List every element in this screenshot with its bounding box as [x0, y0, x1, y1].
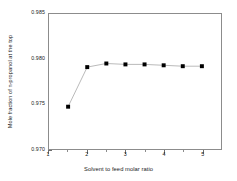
x-tick-label: 4 [163, 152, 166, 157]
series-line [68, 63, 202, 106]
data-point-marker [200, 64, 204, 68]
data-point-marker [104, 62, 108, 66]
series-markers [66, 62, 204, 109]
data-point-marker [162, 63, 166, 67]
data-point-marker [181, 64, 185, 68]
y-axis-title: Mole fraction of n-propanol at the top [4, 13, 16, 150]
x-axis-title: Solvent to feed molar ratio [0, 166, 237, 173]
data-point-marker [66, 105, 70, 109]
x-minor-tick-mark [106, 150, 107, 152]
x-tick-label: 2 [85, 152, 88, 157]
x-minor-tick-mark [145, 150, 146, 152]
x-tick-label: 1 [47, 152, 50, 157]
x-tick-label: 3 [124, 152, 127, 157]
y-tick-label: 0.985 [31, 10, 45, 15]
data-point-marker [85, 65, 89, 69]
x-minor-tick-mark [183, 150, 184, 152]
x-minor-tick-mark [67, 150, 68, 152]
y-tick-label: 0.970 [31, 147, 45, 152]
y-tick-label: 0.975 [31, 102, 45, 107]
data-point-marker [123, 62, 127, 66]
plot-area [48, 13, 222, 150]
data-point-marker [143, 62, 147, 66]
chart-figure: 0.970 0.975 0.980 0.985 Mole fraction of… [0, 0, 237, 181]
x-tick-label: 5 [201, 152, 204, 157]
data-series-layer [49, 14, 221, 149]
y-tick-label: 0.980 [31, 56, 45, 61]
